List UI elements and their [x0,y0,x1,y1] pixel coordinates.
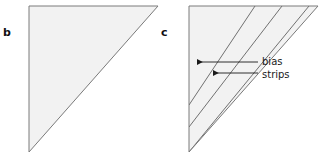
callout-label-bias: bias [262,57,282,67]
triangle-b [29,6,158,152]
bias-strips-figure: b c bias strips [0,0,321,155]
panel-c-group [189,6,318,152]
callout-label-strips: strips [262,70,290,80]
panel-label-b: b [3,27,11,38]
panel-label-c: c [161,27,168,38]
panel-b-group [29,6,158,152]
triangle-c [189,6,318,152]
